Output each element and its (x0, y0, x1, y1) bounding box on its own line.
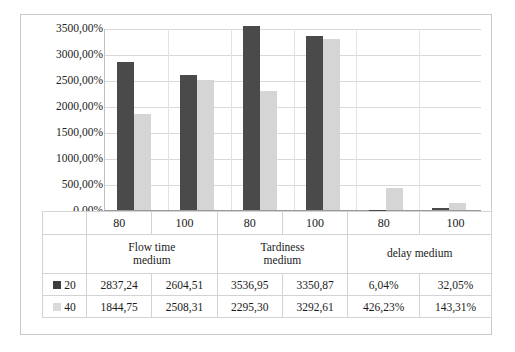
group-label: delay medium (348, 235, 492, 274)
bar-series-20-cat-5 (432, 208, 449, 210)
bar-series-20-cat-1 (180, 75, 197, 210)
table-cell: 6,04% (348, 274, 420, 296)
bar-series-20-cat-3 (306, 36, 323, 210)
group-label-line2: medium (218, 254, 348, 267)
table-cell: 2837,24 (87, 274, 152, 296)
group-label-row: Flow timemediumTardinessmediumdelay medi… (43, 235, 492, 274)
bar-series-20-cat-0 (117, 62, 134, 210)
light-swatch-icon (53, 303, 61, 311)
table-row: 401844,752508,312295,303292,61426,23%143… (43, 296, 492, 318)
y-axis-tick: 2500,00% (43, 75, 103, 87)
table-cell: 143,31% (420, 296, 492, 318)
bar-series-40-cat-2 (260, 91, 277, 210)
group-label-line2: medium (87, 254, 217, 267)
subcategory-row: 801008010080100 (43, 212, 492, 235)
bar-series-40-cat-3 (323, 39, 340, 210)
table-cell: 2295,30 (217, 296, 282, 318)
y-axis-tick: 2000,00% (43, 101, 103, 113)
bar-series-40-cat-0 (134, 114, 151, 210)
y-axis-tick: 3500,00% (43, 23, 103, 35)
subcategory-label: 80 (87, 212, 152, 235)
table-cell: 2604,51 (152, 274, 217, 296)
table-cell: 426,23% (348, 296, 420, 318)
table-row: 202837,242604,513536,953350,876,04%32,05… (43, 274, 492, 296)
bar-series-40-cat-5 (449, 203, 466, 210)
legend-entry-20: 20 (43, 274, 87, 296)
table-corner (43, 235, 87, 274)
legend-label: 20 (64, 279, 76, 291)
table-cell: 1844,75 (87, 296, 152, 318)
y-axis-labels: 0,00%500,00%1000,00%1500,00%2000,00%2500… (43, 29, 103, 211)
bar-series-container (105, 29, 481, 210)
subcategory-label: 80 (217, 212, 282, 235)
y-axis-tick: 500,00% (43, 179, 103, 191)
table-cell: 3350,87 (282, 274, 347, 296)
table-cell: 2508,31 (152, 296, 217, 318)
plot-area (104, 29, 481, 211)
legend-entry-40: 40 (43, 296, 87, 318)
data-table: 801008010080100Flow timemediumTardinessm… (42, 211, 492, 318)
subcategory-label: 80 (348, 212, 420, 235)
group-label-line1: Tardiness (218, 241, 348, 254)
group-label-line1: delay medium (348, 247, 491, 260)
bar-series-40-cat-1 (197, 80, 214, 210)
dark-swatch-icon (53, 281, 61, 289)
legend-label: 40 (64, 301, 76, 313)
bar-series-40-cat-4 (386, 188, 403, 210)
table-cell: 3292,61 (282, 296, 347, 318)
subcategory-label: 100 (282, 212, 347, 235)
table-cell: 32,05% (420, 274, 492, 296)
table-corner (43, 212, 87, 235)
bar-series-20-cat-2 (243, 26, 260, 210)
chart-frame: 0,00%500,00%1000,00%1500,00%2000,00%2500… (20, 14, 492, 335)
group-label: Tardinessmedium (217, 235, 348, 274)
table-cell: 3536,95 (217, 274, 282, 296)
subcategory-label: 100 (152, 212, 217, 235)
plot-wrapper (104, 29, 481, 211)
group-label: Flow timemedium (87, 235, 218, 274)
y-axis-tick: 3000,00% (43, 49, 103, 61)
subcategory-label: 100 (420, 212, 492, 235)
y-axis-tick: 1000,00% (43, 153, 103, 165)
y-axis-tick: 1500,00% (43, 127, 103, 139)
group-label-line1: Flow time (87, 241, 217, 254)
